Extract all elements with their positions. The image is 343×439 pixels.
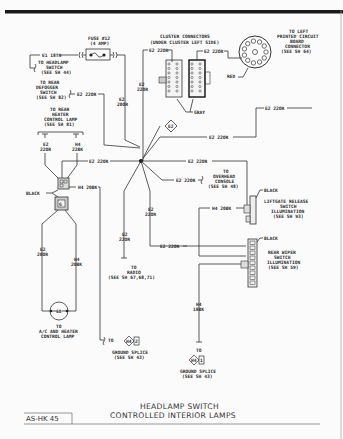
svg-text:1: 1 [200, 358, 203, 363]
wire-label-top-right: E2 22OR [265, 106, 285, 111]
fuse-rating: (4 AMP) [90, 41, 109, 46]
ground-right-to: TO [196, 348, 202, 353]
wire-label-left-mid: E2 22OR [89, 159, 109, 164]
svg-text:CLUSTER CONNECTORS: CLUSTER CONNECTORS [160, 34, 210, 39]
black-label-left: BLACK [26, 191, 40, 196]
diagram-title-line1: HEADLAMP SWITCH [140, 402, 219, 411]
svg-text:(SEE SH 59): (SEE SH 59) [268, 265, 298, 270]
svg-text:(UNDER CLUSTER LEFT SIDE): (UNDER CLUSTER LEFT SIDE) [150, 40, 219, 45]
diagram-title-line2: CONTROLLED INTERIOR LAMPS [110, 411, 236, 420]
wire-label-22or-heater: 22OR [40, 147, 51, 152]
svg-text:E2: E2 [168, 124, 174, 129]
liftgate-ref: LIFTGATE RELEASE SWITCH ILLUMINATION (SE… [264, 199, 308, 219]
wire-label-mid-right-2: E2 22OR [188, 159, 208, 164]
pcb-pin [264, 50, 268, 54]
gray-label: GRAY [194, 110, 205, 115]
red-label: RED [227, 74, 236, 79]
pcb-connector [239, 36, 271, 68]
pcb-pin [257, 40, 261, 44]
wire-label-22or-lower: 22OR [145, 212, 156, 217]
pcb-pin [246, 58, 250, 62]
pcb-pin [242, 53, 246, 57]
socket-connector: G [55, 197, 68, 210]
rear-heater-ref: TO REAR HEATER CONTROL LAMP (SEE SH 81) [44, 107, 77, 127]
svg-text:(SEE SH 43): (SEE SH 43) [182, 374, 212, 379]
ground-splice-right: H4 1 [189, 355, 204, 365]
wire-label-mid-right: E2 22OR [209, 135, 229, 140]
rear-wiper-ref: REAR WIPER SWITCH ILLUMINATION (SEE SH 5… [267, 250, 300, 270]
svg-text:(SEE SH 43): (SEE SH 43) [114, 355, 144, 360]
liftgate-connector [244, 196, 256, 224]
wire-label-rear-wiper: E2 22OR [160, 244, 180, 249]
wire-label-20bk-ac: 20BK [71, 262, 82, 267]
pcb-pin [251, 39, 255, 43]
wire-label-22bk-heater: 22BK [72, 147, 83, 152]
header-bar [5, 10, 343, 14]
svg-text:2: 2 [135, 339, 138, 344]
wire-label-18bk-rear: 18BK [193, 307, 204, 312]
pcb-pin [257, 60, 261, 64]
black-label-liftgate: BLACK [264, 188, 278, 193]
black-connector [58, 178, 69, 189]
wire-label-e1: E1 18TN [42, 53, 62, 58]
wire-label-20or-fuse: 20OR [117, 102, 128, 107]
wire-label-22or-vertical: 22OR [137, 87, 148, 92]
black-label-rear-wiper: BLACK [264, 236, 278, 241]
pcb-pin [242, 47, 246, 51]
radio-ref: TO RADIO (SEE SH 67,68,71) [108, 265, 155, 280]
pcb-pin [246, 41, 250, 45]
svg-text:(SEE SH 93): (SEE SH 93) [273, 214, 303, 219]
ac-lamp-ref: TO A/C AND HEATER CONTROL LAMP [39, 324, 78, 339]
bulb-number: 60 [56, 309, 62, 314]
fuse-12: FUSE #12 (4 AMP) [86, 36, 110, 60]
splice-e2: E2 [165, 120, 177, 132]
pcb-pin [251, 61, 255, 65]
pcb-pin [262, 56, 266, 60]
ground-left-to: TO [108, 338, 114, 343]
ground-splice-left: H4 2 [124, 336, 139, 346]
svg-text:(SEE SH 82): (SEE SH 82) [36, 95, 66, 100]
ac-heater-lamp: 60 [42, 302, 76, 320]
svg-text:(SEE SH 48): (SEE SH 48) [208, 184, 238, 189]
svg-text:CONTROL LAMP: CONTROL LAMP [41, 334, 74, 339]
svg-text:H4: H4 [126, 339, 132, 344]
wire-label-liftgate-ground: H4 20BK [212, 206, 232, 211]
wire-label-20or-ac: 20OR [37, 252, 48, 257]
svg-text:H4: H4 [191, 358, 197, 363]
wire-label-overhead: E2 22OR [176, 178, 196, 183]
diagram-page: FUSE #12 (4 AMP) E1 18TN E2 20OR TO HEAD… [0, 0, 343, 439]
overhead-console-ref: TO OVERHEAD CONSOLE (SEE SH 48) [208, 169, 238, 189]
wire-label-cluster-left: E2 22OR [149, 48, 169, 53]
svg-text:G: G [59, 202, 62, 207]
svg-text:(SEE SH 81): (SEE SH 81) [44, 122, 74, 127]
wire-label-h4-20bk: H4 20BK [78, 185, 98, 190]
pcb-pin [262, 44, 266, 48]
svg-text:(SEE SH 44): (SEE SH 44) [41, 70, 71, 75]
headlamp-switch-ref: TO HEADLAMP SWITCH (SEE SH 44) [38, 60, 71, 75]
wiring-diagram: FUSE #12 (4 AMP) E1 18TN E2 20OR TO HEAD… [0, 0, 343, 439]
wire-label-defogger: E2 22OR [77, 92, 97, 97]
wire-label-cluster-right: E2 22OR [204, 49, 224, 54]
rear-defogger-ref: TO REAR DEFOGGER SWITCH (SEE SH 82) [36, 80, 66, 100]
pcb-ref: TO LEFT PRINTED CIRCUIT BOARD CONNECTOR … [277, 29, 319, 54]
wire-label-22or-radio: 22OR [119, 237, 130, 242]
svg-text:(SEE SH 67,68,71): (SEE SH 67,68,71) [108, 275, 155, 280]
cluster-connectors: CLUSTER CONNECTORS (UNDER CLUSTER LEFT S… [150, 34, 219, 97]
sheet-id: AS-HK 45 [26, 415, 59, 423]
svg-text:(SEE SH 64): (SEE SH 64) [281, 49, 311, 54]
